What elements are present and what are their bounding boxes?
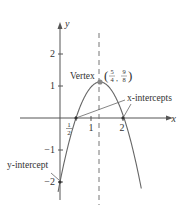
vertex-coord-label: ( 5 4 , 9 8 )	[104, 68, 132, 83]
x-intercept-point-1	[74, 116, 77, 119]
svg-text:): )	[128, 68, 132, 83]
y-intercept-label: y-intercept	[7, 160, 49, 170]
svg-text:(: (	[104, 68, 108, 83]
parabola-chart: x y 2 1 −1 −2 1 2 1 2 Vertex ( 5	[0, 0, 179, 205]
svg-text:−2: −2	[44, 176, 55, 187]
svg-text:9: 9	[122, 68, 125, 75]
y-axis-label: y	[64, 18, 70, 29]
x-intercept-pointer-2	[123, 104, 131, 118]
x-ticks: 1 2 1 2	[66, 116, 125, 137]
svg-text:,: ,	[116, 74, 118, 83]
svg-text:2: 2	[50, 48, 55, 59]
svg-text:−1: −1	[44, 144, 55, 155]
svg-text:1: 1	[50, 80, 55, 91]
svg-text:5: 5	[110, 68, 113, 75]
vertex-label: Vertex	[70, 71, 95, 81]
svg-text:1: 1	[67, 121, 71, 129]
svg-text:1: 1	[89, 122, 94, 133]
x-intercepts-label: x-intercepts	[127, 93, 172, 103]
svg-text:4: 4	[110, 76, 114, 83]
vertex-point	[97, 79, 102, 84]
y-intercept-point	[58, 180, 61, 183]
x-axis-label: x	[171, 113, 177, 124]
x-intercept-pointer-1	[76, 100, 125, 118]
x-intercept-point-2	[121, 116, 124, 119]
y-axis-arrow-icon	[58, 22, 63, 29]
svg-text:2: 2	[120, 122, 125, 133]
svg-text:8: 8	[122, 76, 125, 83]
